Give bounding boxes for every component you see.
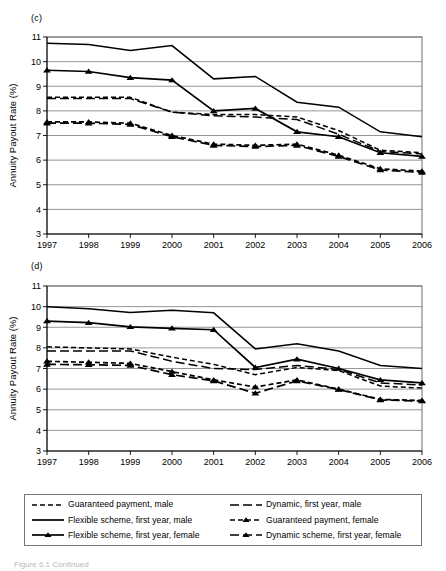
legend-item-label: Dynamic, first year, male bbox=[266, 500, 361, 509]
series-line bbox=[47, 364, 422, 401]
y-tick-label: 7 bbox=[36, 131, 41, 141]
legend-item: Dynamic, first year, male bbox=[223, 497, 421, 512]
y-tick-label: 7 bbox=[36, 364, 41, 374]
legend-item-label: Guaranteed payment, female bbox=[266, 516, 379, 525]
series-marker bbox=[293, 356, 301, 361]
y-tick-label: 6 bbox=[36, 155, 41, 165]
x-tick-label: 1999 bbox=[120, 457, 140, 467]
y-tick-label: 11 bbox=[32, 32, 41, 42]
y-tick-label: 9 bbox=[36, 82, 41, 92]
y-tick-label: 8 bbox=[36, 106, 41, 116]
chart-d-svg: 3456789101119971998199920002001200220032… bbox=[0, 248, 446, 478]
y-tick-label: 10 bbox=[31, 57, 41, 67]
series-line bbox=[47, 97, 422, 152]
y-axis-title: Annuity Payout Rate (%) bbox=[7, 316, 18, 420]
y-tick-label: 6 bbox=[36, 384, 41, 394]
y-tick-label: 3 bbox=[36, 229, 41, 239]
x-tick-label: 2005 bbox=[370, 457, 390, 467]
long-dash-triangle-swatch bbox=[229, 530, 263, 540]
y-tick-label: 9 bbox=[36, 323, 41, 333]
x-tick-label: 2006 bbox=[412, 457, 432, 467]
y-tick-label: 5 bbox=[36, 180, 41, 190]
x-tick-label: 1998 bbox=[79, 457, 99, 467]
solid-line-swatch bbox=[31, 515, 65, 525]
dashed-line-swatch bbox=[31, 500, 65, 510]
series-line bbox=[47, 307, 422, 369]
series-line bbox=[47, 347, 422, 388]
y-axis-title: Annuity Payout Rate (%) bbox=[7, 83, 18, 187]
chart-panel-c: 3456789101119971998199920002001200220032… bbox=[0, 0, 446, 255]
long-dash-line-swatch bbox=[229, 500, 263, 510]
dashed-triangle-swatch bbox=[229, 515, 263, 525]
chart-panel-d: 3456789101119971998199920002001200220032… bbox=[0, 248, 446, 478]
y-tick-label: 10 bbox=[31, 302, 41, 312]
x-tick-label: 2003 bbox=[287, 457, 307, 467]
legend-grid: Guaranteed payment, maleDynamic, first y… bbox=[25, 495, 421, 545]
x-tick-label: 2002 bbox=[245, 457, 265, 467]
series-line bbox=[47, 70, 422, 156]
chart-c-svg: 3456789101119971998199920002001200220032… bbox=[0, 0, 446, 255]
legend-item-label: Guaranteed payment, male bbox=[68, 500, 173, 509]
x-tick-label: 2001 bbox=[204, 457, 224, 467]
figure-caption: Figure 6.1 Continued bbox=[14, 560, 434, 571]
x-tick-label: 2004 bbox=[329, 457, 349, 467]
series-marker bbox=[251, 384, 259, 389]
y-tick-label: 4 bbox=[36, 205, 41, 215]
legend-item: Flexible scheme, first year, female bbox=[25, 528, 223, 543]
figure-container: (c) 345678910111997199819992000200120022… bbox=[0, 0, 446, 571]
y-tick-label: 8 bbox=[36, 343, 41, 353]
y-tick-label: 3 bbox=[36, 446, 41, 456]
legend-item: Guaranteed payment, male bbox=[25, 497, 223, 512]
y-tick-label: 5 bbox=[36, 405, 41, 415]
legend-item: Dynamic scheme, first year, female bbox=[223, 528, 421, 543]
legend-item-label: Flexible scheme, first year, male bbox=[68, 516, 192, 525]
solid-triangle-swatch bbox=[31, 530, 65, 540]
legend-item-label: Flexible scheme, first year, female bbox=[68, 531, 200, 540]
legend-item: Flexible scheme, first year, male bbox=[25, 512, 223, 527]
legend-item-label: Dynamic scheme, first year, female bbox=[266, 531, 401, 540]
chart-legend: Guaranteed payment, maleDynamic, first y… bbox=[24, 494, 422, 546]
x-tick-label: 1997 bbox=[37, 457, 57, 467]
x-tick-label: 2000 bbox=[162, 457, 182, 467]
legend-item: Guaranteed payment, female bbox=[223, 512, 421, 527]
y-tick-label: 11 bbox=[32, 281, 41, 291]
y-tick-label: 4 bbox=[36, 426, 41, 436]
